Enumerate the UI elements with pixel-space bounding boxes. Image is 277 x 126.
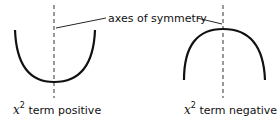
left-variable: x bbox=[13, 103, 20, 117]
left-leader-line bbox=[56, 18, 106, 28]
left-caption-text: term positive bbox=[28, 104, 101, 117]
axes-of-symmetry-label: axes of symmetry bbox=[108, 12, 207, 25]
downward-parabola bbox=[184, 29, 265, 80]
right-variable: x bbox=[184, 103, 191, 117]
left-exponent: 2 bbox=[20, 101, 25, 110]
right-caption: x2 term negative bbox=[184, 102, 277, 117]
right-exponent: 2 bbox=[191, 101, 196, 110]
right-caption-text: term negative bbox=[199, 104, 277, 117]
upward-parabola bbox=[15, 30, 95, 82]
left-caption: x2 term positive bbox=[13, 102, 101, 117]
